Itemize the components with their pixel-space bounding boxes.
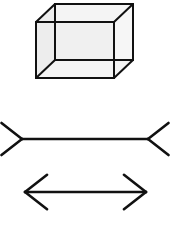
illusion-figure-page [0, 0, 170, 229]
illusion-canvas [0, 0, 170, 229]
necker-cube-figure [36, 4, 133, 78]
